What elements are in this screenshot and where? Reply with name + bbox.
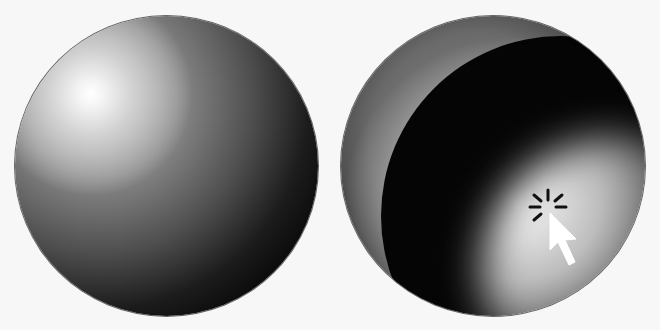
click-burst-icon — [530, 190, 566, 220]
arrow-pointer-icon — [550, 213, 576, 265]
click-cursor-icon — [518, 188, 598, 278]
sphere-left-lit-top-left — [15, 16, 318, 316]
sphere-right-lit-at-cursor — [341, 16, 645, 316]
